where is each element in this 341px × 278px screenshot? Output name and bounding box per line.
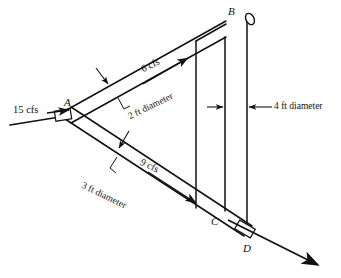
upper-pipe-pointer bbox=[96, 68, 108, 84]
node-label-c: C bbox=[211, 216, 218, 227]
lower-diameter-leader bbox=[110, 157, 117, 173]
pipe-network-drawing bbox=[0, 0, 341, 278]
inlet-flow-label: 15 cfs bbox=[13, 105, 38, 116]
node-label-b: B bbox=[228, 6, 235, 17]
lower-flow-arrow bbox=[148, 172, 196, 203]
vertical-pipe-walls bbox=[196, 22, 247, 228]
upper-diameter-leader bbox=[118, 98, 130, 109]
node-label-d: D bbox=[243, 243, 251, 254]
vertical-diameter-label: 4 ft diameter bbox=[274, 102, 323, 112]
outlet-flow-arrow bbox=[228, 220, 318, 265]
pipe-network-figure: B C D A 15 cfs 6 cfs 9 cfs 2 ft diameter… bbox=[0, 0, 341, 278]
pipe-end-cap-b bbox=[244, 12, 257, 26]
node-label-a: A bbox=[64, 97, 71, 108]
